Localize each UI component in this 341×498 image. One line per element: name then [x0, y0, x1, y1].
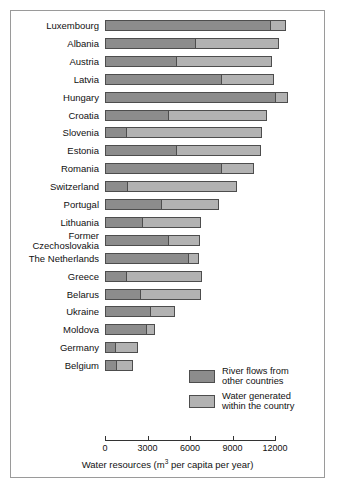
category-label: Luxembourg	[11, 21, 99, 31]
chart-row: Slovenia	[11, 127, 324, 138]
bar-segment-internal-water	[117, 361, 133, 370]
chart-row: Germany	[11, 342, 324, 353]
bar-segment-internal-water	[222, 75, 272, 84]
bar-segment-river-flows	[106, 164, 222, 173]
stacked-bar	[105, 110, 267, 121]
category-label: Belarus	[11, 290, 99, 300]
x-axis-label: Water resources (m3 per capita per year)	[11, 458, 324, 470]
category-label: Former Czechoslovakia	[11, 231, 99, 251]
category-label: Romania	[11, 164, 99, 174]
category-label: Belgium	[11, 361, 99, 371]
chart-row: Austria	[11, 56, 324, 67]
bar-segment-river-flows	[106, 111, 169, 120]
stacked-bar	[105, 360, 133, 371]
bar-segment-internal-water	[177, 146, 260, 155]
category-label: Greece	[11, 272, 99, 282]
legend-label: Water generated within the country	[222, 391, 294, 412]
bar-segment-internal-water	[196, 39, 279, 48]
legend-label: River flows from other countries	[222, 366, 289, 387]
bar-segment-river-flows	[106, 128, 127, 137]
chart-row: Luxembourg	[11, 20, 324, 31]
bar-segment-internal-water	[169, 236, 199, 245]
bar-segment-river-flows	[106, 75, 222, 84]
category-label: Germany	[11, 343, 99, 353]
bar-segment-internal-water	[169, 111, 266, 120]
stacked-bar	[105, 163, 254, 174]
bar-segment-internal-water	[141, 290, 200, 299]
category-label: Lithuania	[11, 218, 99, 228]
bar-segment-internal-water	[162, 200, 218, 209]
chart-row: Former Czechoslovakia	[11, 235, 324, 246]
chart-figure: LuxembourgAlbaniaAustriaLatviaHungaryCro…	[10, 10, 325, 478]
bar-segment-river-flows	[106, 21, 271, 30]
stacked-bar	[105, 199, 219, 210]
chart-row: Albania	[11, 38, 324, 49]
legend-item: River flows from other countries	[189, 366, 289, 387]
category-label: Estonia	[11, 146, 99, 156]
stacked-bar	[105, 56, 272, 67]
legend-swatch	[189, 395, 215, 408]
legend-swatch	[189, 370, 215, 383]
bar-segment-river-flows	[106, 218, 143, 227]
bar-segment-river-flows	[106, 272, 127, 281]
bar-segment-internal-water	[116, 343, 137, 352]
bar-segment-internal-water	[222, 164, 253, 173]
category-label: Moldova	[11, 325, 99, 335]
bar-segment-internal-water	[127, 272, 201, 281]
legend-item: Water generated within the country	[189, 391, 294, 412]
category-label: Latvia	[11, 75, 99, 85]
chart-row: Croatia	[11, 110, 324, 121]
stacked-bar	[105, 306, 175, 317]
chart-row: Romania	[11, 163, 324, 174]
stacked-bar	[105, 271, 202, 282]
category-label: Croatia	[11, 111, 99, 121]
stacked-bar	[105, 342, 138, 353]
stacked-bar	[105, 253, 199, 264]
chart-row: Ukraine	[11, 306, 324, 317]
bar-segment-river-flows	[106, 325, 147, 334]
bar-segment-river-flows	[106, 57, 177, 66]
category-label: The Netherlands	[11, 254, 99, 264]
chart-row: Latvia	[11, 74, 324, 85]
stacked-bar	[105, 324, 155, 335]
bar-segment-internal-water	[127, 128, 261, 137]
category-label: Portugal	[11, 200, 99, 210]
stacked-bar	[105, 181, 237, 192]
stacked-bar	[105, 127, 262, 138]
bar-segment-internal-water	[271, 21, 285, 30]
stacked-bar	[105, 217, 201, 228]
category-label: Austria	[11, 57, 99, 67]
bar-segment-river-flows	[106, 236, 169, 245]
bar-segment-river-flows	[106, 182, 128, 191]
bar-segment-internal-water	[143, 218, 201, 227]
bar-segment-internal-water	[177, 57, 271, 66]
bar-segment-river-flows	[106, 39, 196, 48]
bar-segment-river-flows	[106, 343, 116, 352]
chart-row: The Netherlands	[11, 253, 324, 264]
bar-segment-river-flows	[106, 290, 141, 299]
stacked-bar	[105, 289, 201, 300]
bar-segment-river-flows	[106, 361, 117, 370]
bar-segment-internal-water	[128, 182, 236, 191]
stacked-bar	[105, 74, 274, 85]
category-label: Albania	[11, 39, 99, 49]
chart-row: Portugal	[11, 199, 324, 210]
bar-segment-river-flows	[106, 254, 189, 263]
stacked-bar	[105, 92, 288, 103]
stacked-bar	[105, 235, 200, 246]
bar-segment-river-flows	[106, 307, 151, 316]
chart-legend: River flows from other countriesWater ge…	[189, 366, 329, 416]
stacked-bar	[105, 145, 261, 156]
chart-row: Moldova	[11, 324, 324, 335]
bar-segment-internal-water	[151, 307, 174, 316]
chart-row: Switzerland	[11, 181, 324, 192]
chart-row: Hungary	[11, 92, 324, 103]
bar-segment-internal-water	[147, 325, 154, 334]
category-label: Slovenia	[11, 128, 99, 138]
bar-segment-internal-water	[189, 254, 197, 263]
bar-segment-internal-water	[276, 93, 287, 102]
category-label: Switzerland	[11, 182, 99, 192]
chart-row: Estonia	[11, 145, 324, 156]
category-label: Ukraine	[11, 307, 99, 317]
category-label: Hungary	[11, 93, 99, 103]
